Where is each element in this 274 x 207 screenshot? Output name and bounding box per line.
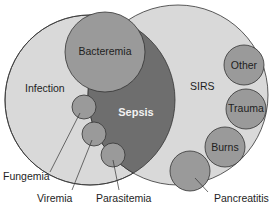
pancreatitis-label: Pancreatitis [214, 192, 269, 204]
parasitemia-label: Parasitemia [96, 192, 152, 204]
fungemia-label: Fungemia [3, 170, 50, 182]
viremia-circle [82, 122, 106, 146]
trauma-label: Trauma [228, 102, 264, 114]
other-label: Other [231, 59, 258, 71]
sepsis-label: Sepsis [118, 106, 153, 118]
sepsis-venn-diagram: Bacteremia Infection SIRS Sepsis Other T… [0, 0, 274, 207]
fungemia-circle [72, 95, 96, 119]
infection-label: Infection [25, 82, 65, 94]
bacteremia-label: Bacteremia [78, 45, 131, 57]
viremia-label: Viremia [37, 192, 73, 204]
sirs-label: SIRS [190, 80, 215, 92]
parasitemia-circle [101, 143, 125, 167]
pancreatitis-circle [170, 151, 210, 191]
burns-label: Burns [211, 141, 238, 153]
